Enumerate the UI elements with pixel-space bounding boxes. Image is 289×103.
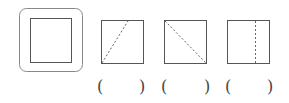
reference-shape [20,9,83,72]
option-square-2 [165,21,207,64]
option-square-1 [102,21,144,64]
fold-line [102,21,128,63]
inner-square [31,19,72,63]
answer-close-paren-3: ) [267,79,273,95]
answer-open-paren-1: ( [97,79,103,95]
answer-open-paren-2: ( [161,79,167,95]
answer-close-paren-2: ) [204,79,210,95]
fold-line [165,21,206,63]
answer-close-paren-1: ) [139,79,145,95]
option-square-3 [228,21,270,64]
answer-open-paren-3: ( [225,79,231,95]
